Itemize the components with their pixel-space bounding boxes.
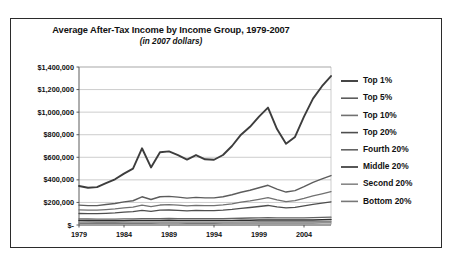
chart-legend: Top 1%Top 5%Top 10%Top 20%Fourth 20%Midd… — [341, 75, 413, 205]
chart-container: Average After-Tax Income by Income Group… — [10, 18, 442, 248]
y-axis-tick-label: $1,400,000 — [37, 63, 74, 72]
y-axis-tick-labels: $-$200,000$400,000$600,000$800,000$1,000… — [37, 63, 74, 230]
legend-label-middle-20: Middle 20% — [363, 161, 409, 171]
x-axis-tick-labels: 197919841989199419992004 — [71, 230, 313, 239]
y-axis-tick-label: $1,200,000 — [37, 85, 74, 94]
legend-label-top-1: Top 1% — [363, 75, 393, 85]
y-axis-tick-label: $200,000 — [44, 198, 74, 207]
plot-area: $-$200,000$400,000$600,000$800,000$1,000… — [11, 19, 441, 247]
x-axis-tick-label: 1984 — [116, 230, 133, 239]
legend-label-second-20: Second 20% — [363, 178, 413, 188]
series-line-second-20 — [79, 222, 331, 223]
legend-label-bottom-20: Bottom 20% — [363, 196, 412, 206]
line-chart-svg: $-$200,000$400,000$600,000$800,000$1,000… — [11, 19, 443, 249]
y-axis-tick-label: $400,000 — [44, 175, 74, 184]
x-axis-tick-label: 1989 — [161, 230, 177, 239]
series-line-middle-20 — [79, 220, 331, 221]
y-axis-tick-label: $800,000 — [44, 130, 74, 139]
x-axis-tick-label: 2004 — [296, 230, 313, 239]
y-axis-tick-label: $1,000,000 — [37, 108, 74, 117]
legend-label-top-5: Top 5% — [363, 92, 393, 102]
series-line-fourth-20 — [79, 217, 331, 219]
y-axis-tick-label: $600,000 — [44, 153, 74, 162]
data-series — [79, 76, 331, 223]
legend-label-top-20: Top 20% — [363, 127, 397, 137]
x-axis-tick-label: 1994 — [206, 230, 223, 239]
legend-label-fourth-20: Fourth 20% — [363, 144, 409, 154]
x-axis-tick-label: 1979 — [71, 230, 87, 239]
series-line-top-1 — [79, 76, 331, 188]
y-axis-tick-label: $- — [68, 221, 75, 230]
legend-label-top-10: Top 10% — [363, 110, 397, 120]
x-axis-tick-label: 1999 — [251, 230, 267, 239]
chart-inner: Average After-Tax Income by Income Group… — [11, 19, 441, 247]
